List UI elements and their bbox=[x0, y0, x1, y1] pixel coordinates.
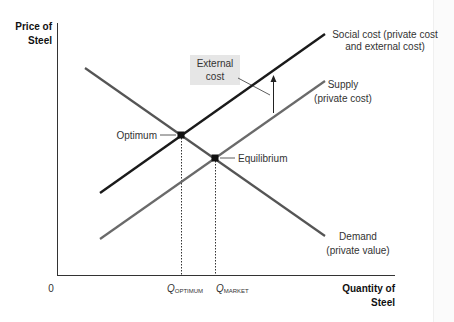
social-cost-label-1: Social cost (private cost bbox=[332, 29, 438, 40]
q-optimum-sub: OPTIMUM bbox=[175, 288, 203, 294]
optimum-label: Optimum bbox=[116, 130, 157, 141]
equilibrium-label: Equilibrium bbox=[238, 153, 287, 164]
externality-chart: External cost Optimum Equilibrium Social… bbox=[0, 0, 454, 322]
equilibrium-point bbox=[212, 155, 219, 162]
q-market-label: QMARKET bbox=[216, 283, 249, 294]
demand-label-2: (private value) bbox=[326, 245, 389, 256]
y-axis-label-1: Price of bbox=[15, 21, 52, 32]
optimum-point bbox=[178, 132, 185, 139]
x-axis-label-1: Quantity of bbox=[342, 283, 395, 294]
origin-label: 0 bbox=[48, 283, 54, 294]
x-axis-label-2: Steel bbox=[371, 297, 395, 308]
social-cost-label-2: and external cost) bbox=[345, 41, 425, 52]
arrow-head-icon bbox=[271, 75, 277, 82]
q-market-sub: MARKET bbox=[224, 288, 249, 294]
supply-label-2: (private cost) bbox=[314, 93, 372, 104]
supply-label-1: Supply bbox=[328, 79, 359, 90]
q-optimum-label: QOPTIMUM bbox=[167, 283, 203, 294]
demand-curve bbox=[85, 68, 325, 236]
external-cost-label-1: External bbox=[197, 58, 234, 69]
demand-label-1: Demand bbox=[339, 231, 377, 242]
y-axis-label-2: Steel bbox=[28, 35, 52, 46]
external-cost-label-2: cost bbox=[206, 71, 225, 82]
